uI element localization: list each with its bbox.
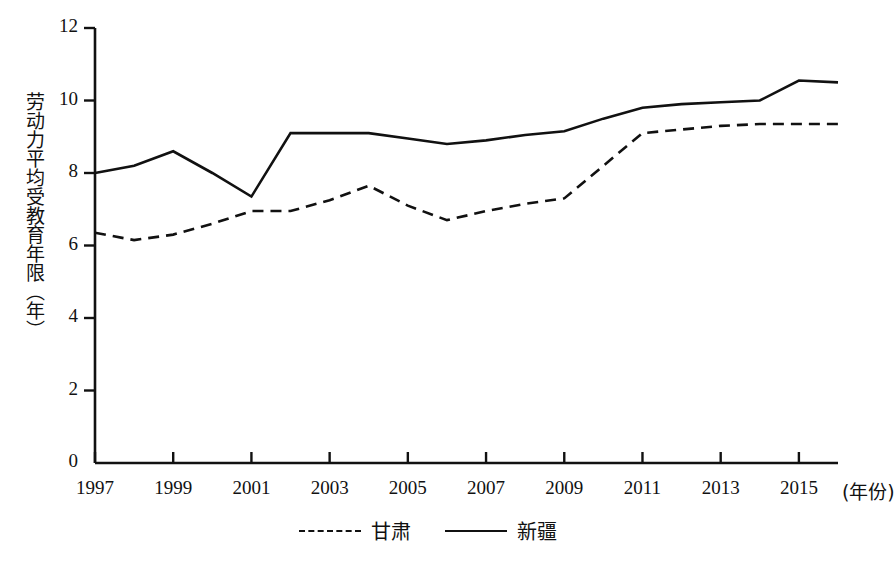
y-tick-label: 6 <box>44 233 78 255</box>
x-tick-label: 2007 <box>446 477 526 499</box>
legend-item-xinjiang[interactable]: 新疆 <box>445 516 557 545</box>
y-tick-label: 4 <box>44 305 78 327</box>
y-tick-label: 0 <box>44 450 78 472</box>
x-tick-label: 1999 <box>133 477 213 499</box>
x-tick-label: 2005 <box>368 477 448 499</box>
x-tick-label: 2001 <box>211 477 291 499</box>
x-tick-label: 2013 <box>681 477 761 499</box>
series-line-xinjiang <box>95 81 838 197</box>
y-tick-label: 12 <box>44 15 78 37</box>
legend-swatch-dashed-icon <box>299 530 361 532</box>
legend-swatch-solid-icon <box>445 530 507 532</box>
y-tick-label: 10 <box>44 88 78 110</box>
legend-label-gansu: 甘肃 <box>371 516 411 545</box>
x-axis-ticks <box>95 452 799 463</box>
y-tick-label: 8 <box>44 160 78 182</box>
axis-lines <box>95 28 838 463</box>
legend-label-xinjiang: 新疆 <box>517 516 557 545</box>
series-layer <box>95 81 838 241</box>
y-axis-ticks <box>84 28 95 391</box>
y-tick-label: 2 <box>44 378 78 400</box>
legend-item-gansu[interactable]: 甘肃 <box>299 516 411 545</box>
x-tick-label: 2015 <box>759 477 839 499</box>
chart-legend: 甘肃 新疆 <box>0 516 855 545</box>
x-tick-label: 1997 <box>55 477 135 499</box>
x-axis-title: (年份) <box>842 477 895 504</box>
x-tick-label: 2003 <box>290 477 370 499</box>
x-tick-label: 2011 <box>602 477 682 499</box>
x-tick-label: 2009 <box>524 477 604 499</box>
